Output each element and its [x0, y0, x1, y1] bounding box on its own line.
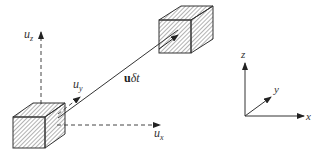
uy-label: uy — [73, 77, 83, 93]
fluid-element-final — [159, 6, 213, 53]
fluid-element-initial — [13, 103, 65, 148]
frame-x-label: x — [305, 110, 311, 122]
translation-diagram: uz uy ux uδt z y x — [0, 0, 317, 153]
uz-label: uz — [24, 27, 34, 43]
frame-z-label: z — [240, 48, 246, 60]
displacement-label: uδt — [124, 71, 140, 85]
ux-label: ux — [154, 126, 164, 142]
frame-y-label: y — [273, 83, 279, 95]
